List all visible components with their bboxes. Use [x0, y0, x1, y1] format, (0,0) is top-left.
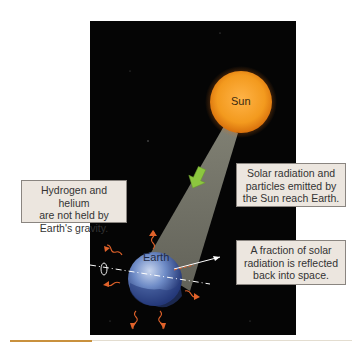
callout-line: are not held by — [26, 209, 122, 222]
callout-line: Hydrogen and helium — [26, 184, 122, 209]
callout-line: particles emitted by — [241, 180, 341, 193]
callout-line: the Sun reach Earth. — [241, 192, 341, 205]
callout-reflection: A fraction of solar radiation is reflect… — [236, 240, 346, 285]
callout-atmospheric-escape: Hydrogen and helium are not held by Eart… — [21, 180, 127, 223]
divider-accent — [10, 340, 92, 342]
callout-line: Solar radiation and — [241, 167, 341, 180]
callout-line: Earth's gravity. — [26, 222, 122, 235]
earth-label: Earth — [143, 251, 169, 263]
callout-line: back into space. — [241, 269, 341, 282]
sun-label: Sun — [231, 95, 251, 107]
callout-solar-input: Solar radiation and particles emitted by… — [236, 163, 346, 207]
divider — [92, 340, 352, 341]
callout-line: radiation is reflected — [241, 257, 341, 270]
callout-line: A fraction of solar — [241, 244, 341, 257]
